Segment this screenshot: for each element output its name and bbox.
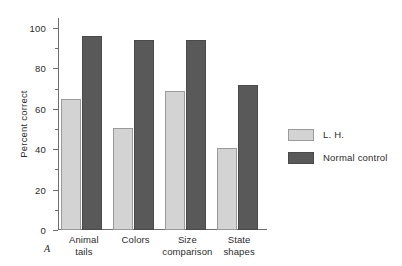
bar-lh-3 <box>217 148 237 230</box>
bar-lh-0 <box>61 99 81 230</box>
bar-normal-control-0 <box>82 36 102 230</box>
bar-normal-control-1 <box>134 40 154 230</box>
y-tick-major-40: 40 <box>53 149 58 150</box>
y-tick-label-80: 80 <box>35 63 46 74</box>
legend-label-normal-control: Normal control <box>323 152 388 163</box>
legend-label-lh: L. H. <box>323 129 344 140</box>
y-tick-minor-30 <box>55 169 58 170</box>
bar-chart-figure: Percent correct 100806040200 Animaltails… <box>0 0 402 266</box>
y-tick-label-20: 20 <box>35 184 46 195</box>
y-tick-minor-70 <box>55 89 58 90</box>
y-axis-title: Percent correct <box>18 90 29 157</box>
x-category-label-line: State <box>199 234 279 246</box>
bar-normal-control-3 <box>238 85 258 230</box>
legend-item-0: L. H. <box>288 125 388 144</box>
y-tick-major-100: 100 <box>53 28 58 29</box>
y-tick-major-80: 80 <box>53 68 58 69</box>
legend-swatch-icon-lh <box>288 129 314 141</box>
y-tick-major-60: 60 <box>53 109 58 110</box>
x-category-label-line: tails <box>44 246 124 258</box>
y-tick-label-60: 60 <box>35 103 46 114</box>
y-tick-major-20: 20 <box>53 190 58 191</box>
y-tick-label-100: 100 <box>30 23 46 34</box>
x-category-label-line: shapes <box>199 246 279 258</box>
y-tick-minor-10 <box>55 210 58 211</box>
y-tick-minor-50 <box>55 129 58 130</box>
panel-label: A <box>44 243 50 254</box>
y-tick-label-40: 40 <box>35 144 46 155</box>
legend-swatch-icon-normal-control <box>288 152 314 164</box>
x-category-label-3: Stateshapes <box>199 234 279 257</box>
chart-legend: L. H. Normal control <box>288 125 388 171</box>
bar-normal-control-2 <box>186 40 206 230</box>
y-tick-minor-90 <box>55 48 58 49</box>
bar-lh-1 <box>113 128 133 230</box>
bar-lh-2 <box>165 91 185 230</box>
y-tick-major-0: 0 <box>53 230 58 231</box>
legend-item-1: Normal control <box>288 148 388 167</box>
plot-area: 100806040200 <box>58 18 265 230</box>
